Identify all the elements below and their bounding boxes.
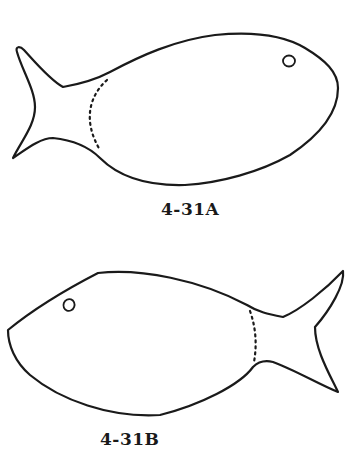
fish-b: [8, 271, 343, 415]
figure-label-b: 4-31B: [100, 429, 159, 449]
fish-b-eye: [62, 297, 76, 312]
fish-a: [13, 34, 338, 185]
figure-label-a: 4-31A: [161, 199, 219, 219]
fish-b-cut-line: [250, 311, 256, 362]
fish-a-eye: [283, 56, 295, 67]
fish-diagram: [0, 0, 354, 457]
fish-a-cut-line: [90, 80, 107, 150]
fish-b-outline: [8, 271, 343, 415]
